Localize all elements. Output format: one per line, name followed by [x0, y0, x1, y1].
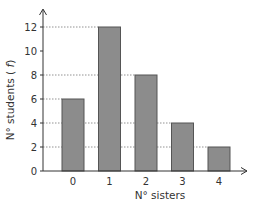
y-tick-label: 2 — [31, 142, 37, 153]
x-tick-label: 3 — [179, 176, 185, 187]
y-axis-label: N° students ( f) — [4, 60, 16, 141]
bar-0 — [62, 99, 84, 171]
y-tick-label: 12 — [24, 22, 37, 33]
y-ticks: 024681012 — [24, 22, 43, 177]
bars — [62, 27, 230, 171]
y-tick-label: 4 — [31, 118, 37, 129]
y-tick-label: 6 — [31, 94, 37, 105]
bar-2 — [135, 75, 157, 171]
x-tick-label: 0 — [70, 176, 76, 187]
x-axis-label: N° sisters — [135, 189, 186, 201]
bar-4 — [208, 147, 230, 171]
x-tick-label: 2 — [143, 176, 149, 187]
y-tick-label: 10 — [24, 46, 37, 57]
x-ticks: 01234 — [70, 176, 222, 187]
bar-1 — [99, 27, 121, 171]
bar-3 — [172, 123, 194, 171]
bar-chart: 024681012 01234 N° sisters N° students (… — [0, 0, 255, 209]
x-tick-label: 4 — [216, 176, 222, 187]
x-tick-label: 1 — [106, 176, 112, 187]
y-tick-label: 8 — [31, 70, 37, 81]
y-tick-label: 0 — [31, 166, 37, 177]
